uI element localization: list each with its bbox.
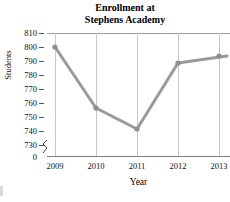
y-tick-mark [39, 103, 44, 104]
x-tick-label-2013: 2013 [201, 161, 230, 171]
y-tick-label: 750 [24, 113, 37, 122]
plot-area [47, 33, 230, 156]
y-tick-label: 780 [24, 71, 37, 80]
axis-break-icon [41, 140, 50, 154]
y-tick-mark [39, 75, 44, 76]
y-tick-label: 790 [24, 57, 37, 66]
corner-artifact [0, 186, 3, 196]
chart-title-line-2: Stephens Academy [30, 14, 220, 26]
gridline-2010 [96, 33, 97, 156]
x-tick-label-2010: 2010 [78, 161, 114, 171]
gridline-2012 [178, 33, 179, 156]
y-tick-mark [39, 33, 44, 34]
y-tick-mark [39, 89, 44, 90]
x-axis-title: Year [47, 177, 230, 187]
x-tick-label-2011: 2011 [119, 161, 155, 171]
gridline-2009 [55, 33, 56, 156]
enrollment-line-chart: Enrollment at Stephens Academy 810 800 7… [0, 0, 230, 202]
gridline-2013 [219, 33, 220, 156]
x-tick-label-2012: 2012 [160, 161, 196, 171]
x-tick-label-2009: 2009 [37, 161, 73, 171]
plot-top-border [47, 33, 230, 34]
y-tick-label: 810 [24, 29, 37, 38]
y-tick-label: 770 [24, 85, 37, 94]
gridline-2011 [137, 33, 138, 156]
chart-title-line-1: Enrollment at [30, 2, 220, 14]
y-tick-label: 730 [24, 141, 37, 150]
y-tick-label: 740 [24, 127, 37, 136]
y-tick-mark [39, 61, 44, 62]
y-tick-mark [39, 117, 44, 118]
y-tick-label: 760 [24, 99, 37, 108]
x-axis-line [47, 156, 230, 157]
y-tick-mark [39, 131, 44, 132]
y-tick-label: 800 [24, 43, 37, 52]
y-axis-title: Students [3, 35, 13, 95]
y-tick-mark [39, 47, 44, 48]
chart-title: Enrollment at Stephens Academy [30, 2, 220, 25]
